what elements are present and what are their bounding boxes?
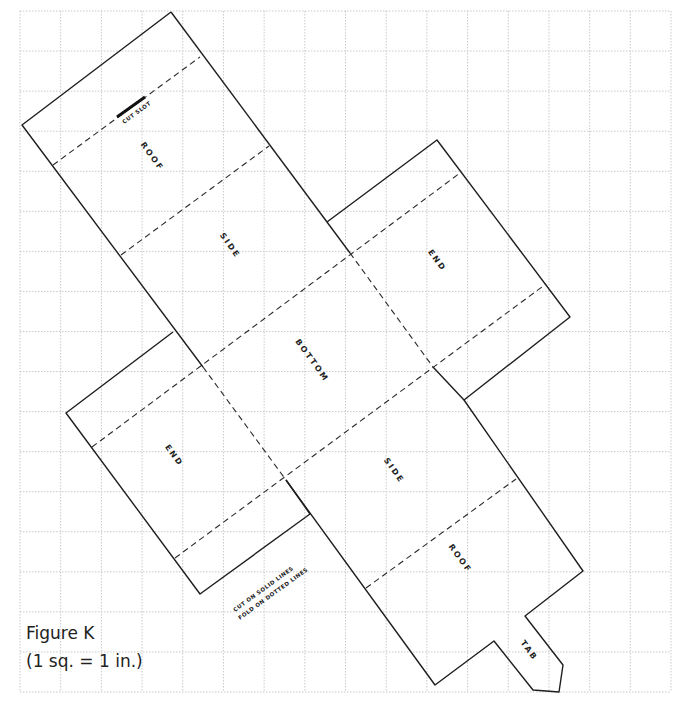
figure-scale: (1 sq. = 1 in.) xyxy=(26,651,143,671)
panel-label-bottom: BOTTOM xyxy=(293,337,330,383)
panel-label-end-right: END xyxy=(426,248,448,273)
fold-roof-side xyxy=(121,146,269,255)
grid xyxy=(20,11,671,692)
strip-left-edge-upper xyxy=(22,12,203,367)
panel-label-side-top: SIDE xyxy=(218,231,242,260)
end-right-outline xyxy=(327,140,570,400)
panel-label-tab: TAB xyxy=(519,639,540,663)
fold-upper-long xyxy=(92,173,460,447)
panel-labels: ROOFSIDEBOTTOMENDENDSIDEROOFTAB xyxy=(139,140,540,662)
fold-lines xyxy=(53,57,546,588)
panel-label-end-left: END xyxy=(163,443,185,468)
pattern-diagram: CUT SLOT ROOFSIDEBOTTOMENDENDSIDEROOFTAB… xyxy=(0,0,691,723)
fold-bottom-right xyxy=(350,253,433,367)
fold-bottom-left xyxy=(203,367,286,480)
fold-lower-long xyxy=(175,284,546,558)
strip-right-edge-upper xyxy=(171,12,350,253)
panel-label-side-bottom: SIDE xyxy=(382,456,406,485)
figure-title: Figure K xyxy=(26,623,94,643)
panel-label-roof-top: ROOF xyxy=(139,140,166,172)
fold-instruction: FOLD ON DOTTED LINES xyxy=(237,566,309,621)
panel-label-roof-bottom: ROOF xyxy=(447,542,474,574)
